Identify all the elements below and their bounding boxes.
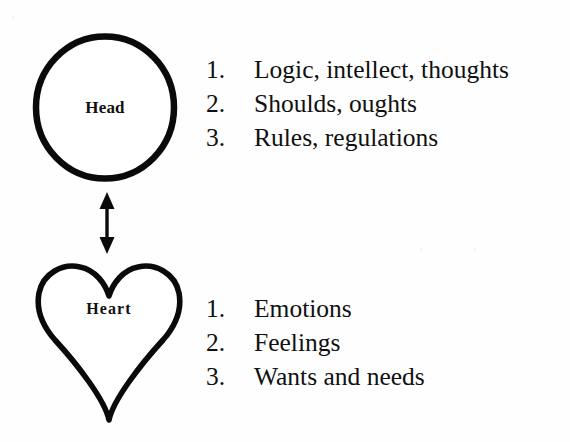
list-item-text: Logic, intellect, thoughts <box>254 53 509 87</box>
list-item-number: 1. <box>206 292 254 326</box>
heart-label: Heart <box>36 301 182 317</box>
head-label: Head <box>31 99 179 116</box>
scan-speckle <box>12 16 15 19</box>
list-item-number: 2. <box>206 326 254 360</box>
head-attributes-list: 1. Logic, intellect, thoughts 2. Shoulds… <box>206 53 509 155</box>
list-item: 2. Shoulds, oughts <box>206 87 509 121</box>
list-item: 3. Wants and needs <box>206 360 425 394</box>
list-item-text: Rules, regulations <box>254 121 438 155</box>
list-item-number: 2. <box>206 87 254 121</box>
scan-speckle <box>473 248 476 251</box>
list-item-text: Feelings <box>254 326 340 360</box>
list-item-text: Wants and needs <box>254 360 425 394</box>
diagram-canvas: Head Heart 1. Logic, intellect, thoughts… <box>0 0 570 442</box>
list-item-text: Shoulds, oughts <box>254 87 417 121</box>
list-item: 2. Feelings <box>206 326 425 360</box>
heart-attributes-list: 1. Emotions 2. Feelings 3. Wants and nee… <box>206 292 425 394</box>
list-item: 1. Logic, intellect, thoughts <box>206 53 509 87</box>
list-item-number: 3. <box>206 121 254 155</box>
list-item: 3. Rules, regulations <box>206 121 509 155</box>
list-item-number: 3. <box>206 360 254 394</box>
list-item: 1. Emotions <box>206 292 425 326</box>
double-headed-arrow-icon <box>93 192 121 254</box>
heart-shape <box>33 260 185 424</box>
scan-speckle <box>420 248 423 251</box>
list-item-number: 1. <box>206 53 254 87</box>
list-item-text: Emotions <box>254 292 352 326</box>
